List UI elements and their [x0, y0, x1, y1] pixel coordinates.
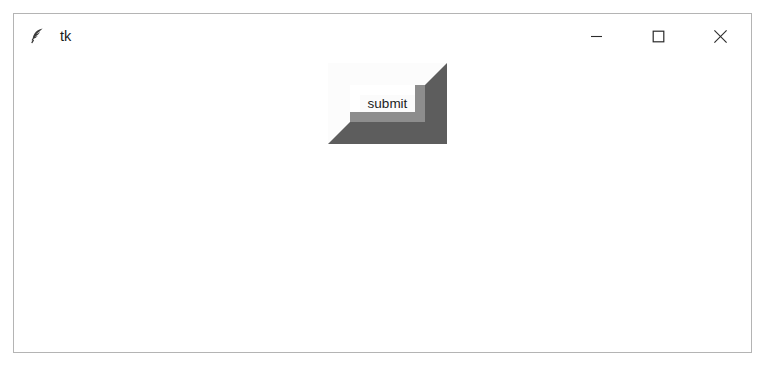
close-button[interactable]	[689, 14, 751, 58]
title-bar-left: tk	[14, 27, 565, 45]
tk-window: tk	[13, 13, 752, 353]
submit-button-label: submit	[350, 97, 425, 111]
minimize-button[interactable]	[565, 14, 627, 58]
close-icon	[713, 29, 728, 44]
title-bar[interactable]: tk	[14, 14, 751, 58]
minimize-icon	[590, 30, 603, 43]
window-title: tk	[60, 29, 71, 44]
submit-button[interactable]: submit	[328, 63, 447, 144]
maximize-button[interactable]	[627, 14, 689, 58]
maximize-icon	[652, 30, 665, 43]
client-area: submit	[14, 58, 751, 352]
feather-quill-icon	[28, 27, 46, 45]
window-controls	[565, 14, 751, 58]
